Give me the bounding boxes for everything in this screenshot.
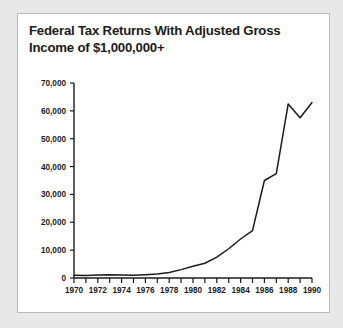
x-tick-label: 1972 [89,286,108,295]
line-chart-svg: 010,00020,00030,00040,00050,00060,00070,… [18,14,331,314]
y-tick-label: 30,000 [41,190,66,199]
x-tick-label: 1978 [160,286,179,295]
y-tick-label: 70,000 [41,79,66,88]
y-tick-label: 0 [61,274,66,283]
y-axis-group: 010,00020,00030,00040,00050,00060,00070,… [41,79,74,283]
plot-area: 010,00020,00030,00040,00050,00060,00070,… [18,14,331,314]
x-tick-group: 1970197219741976197819801982198419861988… [65,278,322,295]
x-tick-label: 1982 [208,286,227,295]
x-tick-label: 1970 [65,286,84,295]
x-tick-label: 1984 [231,286,250,295]
chart-panel: Federal Tax Returns With Adjusted Gross … [17,13,330,313]
data-series-group [74,103,312,276]
y-tick-label: 20,000 [41,218,66,227]
x-tick-label: 1990 [303,286,322,295]
chart-page: Federal Tax Returns With Adjusted Gross … [0,0,343,328]
x-tick-label: 1988 [279,286,298,295]
y-tick-label: 40,000 [41,163,66,172]
y-tick-label: 10,000 [41,246,66,255]
x-tick-label: 1986 [255,286,274,295]
y-tick-label: 50,000 [41,135,66,144]
x-axis-group: 1970197219741976197819801982198419861988… [65,278,322,295]
y-tick-group: 010,00020,00030,00040,00050,00060,00070,… [41,79,74,283]
y-tick-label: 60,000 [41,107,66,116]
x-tick-label: 1980 [184,286,203,295]
data-line-returns [74,103,312,276]
x-tick-label: 1974 [112,286,131,295]
x-tick-label: 1976 [136,286,155,295]
